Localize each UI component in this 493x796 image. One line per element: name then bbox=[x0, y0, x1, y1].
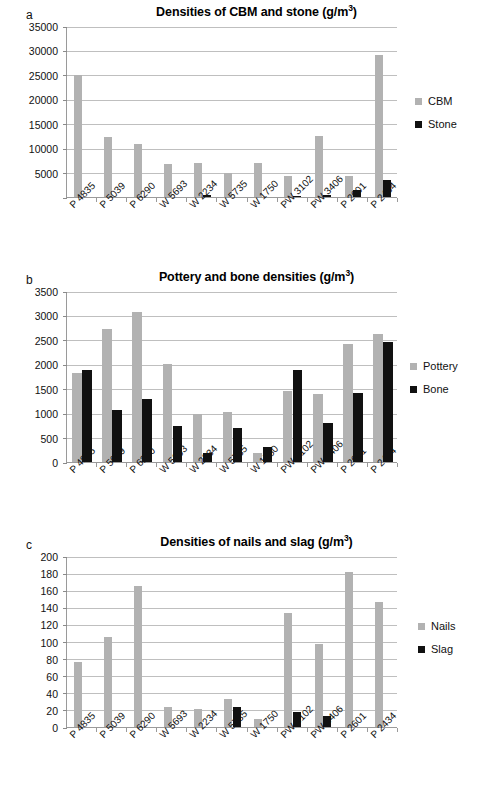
legend-swatch-icon bbox=[415, 121, 422, 128]
y-axis-tick-label: 20000 bbox=[0, 95, 58, 106]
bar-group bbox=[278, 292, 308, 462]
y-axis-tick-label: 60 bbox=[0, 671, 58, 682]
bar-group bbox=[338, 292, 368, 462]
y-axis-tick-label: 2000 bbox=[0, 360, 58, 371]
bar-nails bbox=[345, 572, 353, 727]
legend-item[interactable]: Slag bbox=[418, 643, 455, 655]
bar-pottery bbox=[102, 329, 112, 462]
bar-group bbox=[338, 557, 368, 727]
y-axis-tick-label: 3000 bbox=[0, 311, 58, 322]
y-axis-tick-label: 0 bbox=[0, 723, 58, 734]
bar-group bbox=[278, 27, 308, 197]
bar-group bbox=[97, 557, 127, 727]
bar-nails bbox=[134, 586, 142, 727]
legend-item[interactable]: Bone bbox=[410, 383, 458, 395]
legend-item[interactable]: Pottery bbox=[410, 360, 458, 372]
legend-swatch-icon bbox=[415, 98, 422, 105]
bar-pottery bbox=[313, 394, 323, 462]
bar-pottery bbox=[163, 364, 173, 462]
bar-bone bbox=[383, 342, 393, 462]
y-axis-tick-label: 40 bbox=[0, 689, 58, 700]
y-axis-tick-label: 100 bbox=[0, 637, 58, 648]
y-axis-tick-label: 180 bbox=[0, 569, 58, 580]
plot-area-b bbox=[66, 292, 397, 463]
legend-swatch-icon bbox=[410, 363, 417, 370]
bar-group bbox=[308, 557, 338, 727]
x-tick-mark bbox=[397, 728, 398, 732]
bar-nails bbox=[104, 637, 112, 727]
legend-label: Nails bbox=[431, 620, 455, 632]
bar-group bbox=[97, 27, 127, 197]
legend-a: CBMStone bbox=[415, 95, 457, 141]
bar-pottery bbox=[283, 391, 293, 462]
bar-group bbox=[127, 292, 157, 462]
bar-group bbox=[157, 557, 187, 727]
legend-b: PotteryBone bbox=[410, 360, 458, 406]
y-axis-tick-label: 25000 bbox=[0, 71, 58, 82]
bar-group bbox=[157, 292, 187, 462]
plot-wrap-c: 020406080100120140160180200P 4835P 5039P… bbox=[0, 530, 493, 795]
plot-area-c bbox=[66, 557, 397, 728]
y-axis-tick-label: 15000 bbox=[0, 119, 58, 130]
bar-group bbox=[97, 292, 127, 462]
legend-swatch-icon bbox=[418, 646, 425, 653]
bar-group bbox=[187, 557, 217, 727]
legend-item[interactable]: Nails bbox=[418, 620, 455, 632]
bar-pottery bbox=[72, 373, 82, 462]
plot-wrap-a: 5000100001500020000250003000035000P 4835… bbox=[0, 0, 493, 265]
bar-nails bbox=[375, 602, 383, 727]
legend-label: Bone bbox=[423, 383, 449, 395]
chart-panel-c: c Densities of nails and slag (g/m3) 020… bbox=[0, 530, 493, 795]
bar-group bbox=[368, 557, 398, 727]
bar-group bbox=[248, 27, 278, 197]
y-axis-tick-label: 160 bbox=[0, 586, 58, 597]
x-tick-mark bbox=[397, 198, 398, 202]
plot-wrap-b: 0500100015002000250030003500P 4835P 5039… bbox=[0, 265, 493, 530]
bar-group bbox=[67, 557, 97, 727]
legend-label: CBM bbox=[428, 95, 452, 107]
bar-group bbox=[338, 27, 368, 197]
bar-pottery bbox=[132, 312, 142, 462]
y-tick-mark bbox=[63, 463, 67, 464]
y-axis-tick-label: 2500 bbox=[0, 336, 58, 347]
y-axis-tick-label: 120 bbox=[0, 620, 58, 631]
bar-group bbox=[187, 27, 217, 197]
bar-cbm bbox=[74, 75, 82, 197]
bar-group bbox=[368, 292, 398, 462]
legend-label: Stone bbox=[428, 118, 457, 130]
bar-group bbox=[157, 27, 187, 197]
y-axis-tick-label: 0 bbox=[0, 458, 58, 469]
bar-group bbox=[67, 27, 97, 197]
y-axis-tick-label: 1000 bbox=[0, 409, 58, 420]
legend-c: NailsSlag bbox=[418, 620, 455, 666]
chart-panel-a: a Densities of CBM and stone (g/m3) 5000… bbox=[0, 0, 493, 265]
y-tick-mark bbox=[63, 728, 67, 729]
legend-swatch-icon bbox=[410, 386, 417, 393]
bar-pottery bbox=[343, 344, 353, 462]
bar-group bbox=[217, 292, 247, 462]
bar-group bbox=[278, 557, 308, 727]
bar-group bbox=[217, 557, 247, 727]
y-axis-tick-label: 35000 bbox=[0, 22, 58, 33]
bar-cbm bbox=[375, 55, 383, 197]
legend-item[interactable]: CBM bbox=[415, 95, 457, 107]
y-axis-tick-label: 140 bbox=[0, 603, 58, 614]
bar-group bbox=[127, 557, 157, 727]
bar-group bbox=[368, 27, 398, 197]
legend-item[interactable]: Stone bbox=[415, 118, 457, 130]
chart-panel-b: b Pottery and bone densities (g/m3) 0500… bbox=[0, 265, 493, 530]
bar-pottery bbox=[373, 334, 383, 462]
bar-group bbox=[248, 557, 278, 727]
legend-label: Pottery bbox=[423, 360, 458, 372]
bar-nails bbox=[315, 644, 323, 727]
bar-group bbox=[127, 27, 157, 197]
x-tick-mark bbox=[397, 463, 398, 467]
bar-group bbox=[67, 292, 97, 462]
bar-group bbox=[187, 292, 217, 462]
bar-group bbox=[217, 27, 247, 197]
bar-group bbox=[308, 27, 338, 197]
y-axis-tick-label: 500 bbox=[0, 433, 58, 444]
y-axis-tick-label: 3500 bbox=[0, 287, 58, 298]
y-axis-tick-label: 5000 bbox=[0, 168, 58, 179]
y-axis-tick-label: 30000 bbox=[0, 46, 58, 57]
